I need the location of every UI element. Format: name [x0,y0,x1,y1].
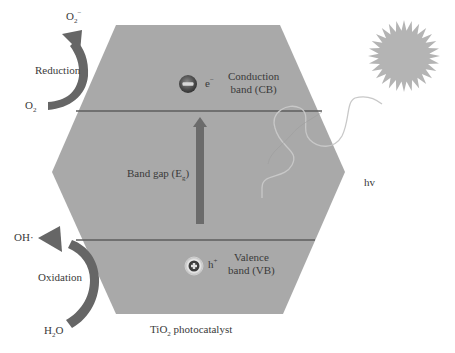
reduction-reactant-label: O2 [25,99,36,112]
minus-circle-icon [179,75,197,93]
oxidation-reactant-label: H2O [44,324,63,337]
caption-label: TiO2 photocatalyst [150,323,232,336]
oxidation-label: Oxidation [38,271,82,284]
valence-band-label: Valence band (VB) [228,251,275,277]
hole-label: h+ [208,258,217,271]
sun-icon [368,20,440,92]
conduction-band-label: Conduction band (CB) [228,70,279,96]
reduction-product-label: O2− [66,10,81,23]
light-hv-label: hv [364,176,375,189]
oxidation-product-label: OH· [14,231,34,244]
reduction-label: Reduction [35,64,80,77]
plus-circle-icon [185,257,203,275]
electron-label: e− [205,77,214,90]
photocatalysis-diagram [0,0,455,353]
band-gap-label: Band gap (Eg) [127,167,189,180]
